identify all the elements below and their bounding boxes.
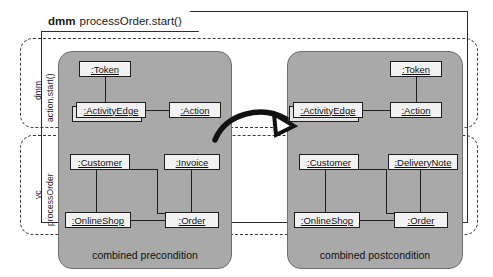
link-activityedge-action-left: [142, 110, 169, 111]
node-activityedge-precondition[interactable]: :ActivityEdge: [76, 102, 146, 118]
frame-title-text: processOrder.start(): [79, 15, 181, 27]
frame-title-keyword: dmm: [48, 15, 75, 27]
link-invoice-order-left: [191, 170, 192, 214]
node-deliverynote-postcondition[interactable]: :DeliveryNote: [388, 154, 458, 170]
link-deliverynote-order-right: [420, 170, 421, 214]
transformation-arrow-icon: [212, 104, 304, 148]
diagram-canvas: dmm processOrder.start() dmm action.star…: [0, 0, 493, 277]
node-customer-precondition[interactable]: :Customer: [70, 154, 130, 170]
link-customer-order-v-left: [157, 169, 158, 214]
link-customer-onlineshop-right: [325, 170, 326, 214]
node-onlineshop-precondition[interactable]: :OnlineShop: [65, 212, 131, 228]
frame-title-tab: dmm processOrder.start(): [41, 11, 199, 32]
node-action-postcondition[interactable]: :Action: [390, 102, 442, 118]
link-customer-order-v-right: [386, 169, 387, 214]
node-invoice-precondition[interactable]: :Invoice: [164, 154, 220, 170]
node-order-precondition[interactable]: :Order: [165, 212, 219, 228]
node-onlineshop-postcondition[interactable]: :OnlineShop: [294, 212, 360, 228]
node-token-postcondition[interactable]: :Token: [390, 61, 442, 77]
node-customer-postcondition[interactable]: :Customer: [299, 154, 359, 170]
link-customer-onlineshop-left: [96, 170, 97, 214]
link-token-activityedge-left: [105, 76, 106, 104]
node-token-precondition[interactable]: :Token: [79, 61, 131, 77]
link-activityedge-action-right: [363, 110, 390, 111]
link-token-action-right: [416, 76, 417, 104]
panel-postcondition-caption: combined postcondition: [288, 249, 462, 261]
node-order-postcondition[interactable]: :Order: [394, 212, 448, 228]
panel-precondition-caption: combined precondition: [59, 249, 231, 261]
